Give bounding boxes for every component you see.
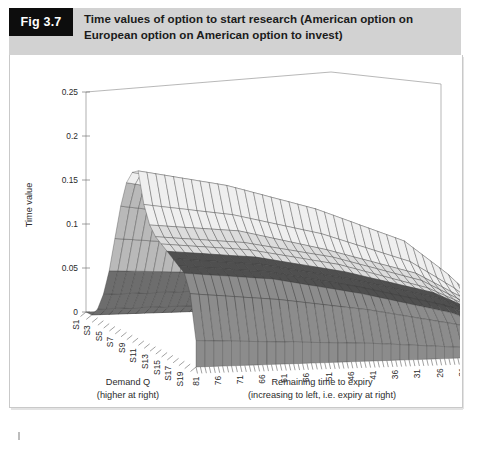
figure-title: Time values of option to start research …	[84, 11, 456, 42]
y-axis-label: Remaining time to expiry	[271, 377, 373, 387]
y-tick	[374, 361, 376, 368]
y-tick	[449, 358, 451, 365]
surface-mesh	[86, 171, 460, 367]
x-tick	[92, 318, 98, 323]
y-tick	[382, 361, 384, 368]
x-tick-label: S17	[163, 365, 173, 380]
y-tick	[294, 364, 296, 371]
y-tick	[396, 360, 398, 367]
x-tick	[86, 315, 92, 320]
surface-skirt-cell	[276, 342, 285, 364]
y-tick	[236, 366, 238, 373]
x-tick	[138, 341, 144, 346]
z-tick-label: 0.1	[66, 219, 78, 229]
y-tick	[298, 364, 300, 371]
surface-skirt-cell	[249, 341, 258, 365]
z-tick-label: 0.05	[62, 263, 79, 273]
y-tick	[356, 362, 358, 369]
x-axis-sublabel: (higher at right)	[97, 390, 159, 400]
y-tick	[254, 365, 256, 372]
surface-skirt-cell	[445, 347, 454, 359]
y-tick	[413, 360, 415, 367]
surface-skirt-cell	[232, 341, 241, 366]
z-axis-tick-labels: 0.25 0.2 0.15 0.1 0.05 0	[62, 87, 79, 317]
x-tick	[121, 332, 127, 337]
z-tick-label: 0.2	[66, 131, 78, 141]
surface-skirt-cell	[196, 341, 205, 367]
y-tick	[365, 361, 367, 368]
y-tick	[445, 359, 447, 366]
caption-rule	[18, 432, 20, 440]
y-tick-label: 31	[412, 369, 422, 379]
x-tick-label: S15	[152, 360, 162, 375]
figure-title-line-1: Time values of option to start research …	[84, 11, 456, 27]
surface-skirt-cell	[311, 342, 320, 363]
surface-skirt-cell	[329, 343, 338, 363]
surface-skirt-cell	[409, 345, 418, 360]
x-tick-label: S19	[175, 371, 185, 386]
surface-skirt-cell	[320, 343, 329, 363]
y-tick	[316, 363, 318, 370]
y-tick	[249, 365, 251, 372]
y-tick	[351, 362, 353, 369]
y-tick	[209, 367, 211, 374]
surface-skirt-cell	[427, 346, 436, 359]
y-tick	[391, 360, 393, 367]
y-tick-label: 76	[213, 375, 223, 385]
figure-number-tag: Fig 3.7	[9, 8, 73, 36]
x-axis-label: Demand Q	[106, 377, 150, 387]
y-tick	[258, 365, 260, 372]
y-tick	[280, 364, 282, 371]
surface-skirt-cell	[338, 343, 347, 362]
y-tick	[218, 366, 220, 373]
y-tick	[325, 363, 327, 370]
figure-page: Fig 3.7 Time values of option to start r…	[0, 0, 478, 451]
x-tick-label: S3	[82, 325, 92, 336]
surface-skirt-cell	[205, 341, 214, 367]
x-axis: S1S3S5S7S9S11S13S15S17S19 Demand Q (high…	[71, 312, 197, 400]
y-tick	[245, 365, 247, 372]
x-tick-label: S7	[105, 337, 115, 348]
x-tick-label: S1	[71, 319, 81, 330]
z-axis: 0.25 0.2 0.15 0.1 0.05 0 Time value	[24, 87, 90, 317]
surface-skirt-cell	[258, 342, 267, 365]
surface-skirt-cell	[356, 343, 365, 361]
x-tick	[167, 355, 173, 360]
y-tick	[387, 361, 389, 368]
surface-skirt-cell	[436, 346, 445, 359]
x-tick	[81, 312, 87, 317]
y-tick	[205, 367, 207, 374]
y-tick	[427, 359, 429, 366]
x-tick	[127, 335, 133, 340]
y-tick	[307, 363, 309, 370]
z-axis-label: Time value	[24, 183, 34, 228]
y-tick	[422, 359, 424, 366]
y-tick-label: 81	[191, 376, 201, 386]
y-tick	[342, 362, 344, 369]
x-tick-label: S13	[140, 354, 150, 369]
y-tick	[263, 365, 265, 372]
x-tick	[162, 353, 168, 358]
x-tick	[179, 361, 185, 366]
y-tick	[458, 358, 460, 365]
surface-skirt-cell	[391, 344, 400, 360]
y-tick	[409, 360, 411, 367]
y-tick	[334, 362, 336, 369]
surface-skirt-cell	[294, 342, 303, 364]
surface-skirt-cell	[382, 344, 391, 361]
x-tick	[109, 327, 115, 332]
surface-skirt-cell	[240, 341, 249, 365]
surface-skirt-cell	[303, 342, 312, 363]
y-tick	[214, 366, 216, 373]
z-tick-label: 0	[73, 307, 78, 317]
y-tick	[267, 365, 269, 372]
surface-skirt-cell	[453, 347, 460, 358]
y-tick	[276, 364, 278, 371]
surface-skirt-cell	[223, 341, 232, 366]
x-tick-label: S5	[94, 331, 104, 342]
y-tick-label: 71	[235, 375, 245, 385]
y-tick	[227, 366, 229, 373]
surface-skirt-cell	[365, 343, 374, 361]
y-tick	[200, 367, 202, 374]
z-tick-label: 0.25	[62, 87, 79, 97]
